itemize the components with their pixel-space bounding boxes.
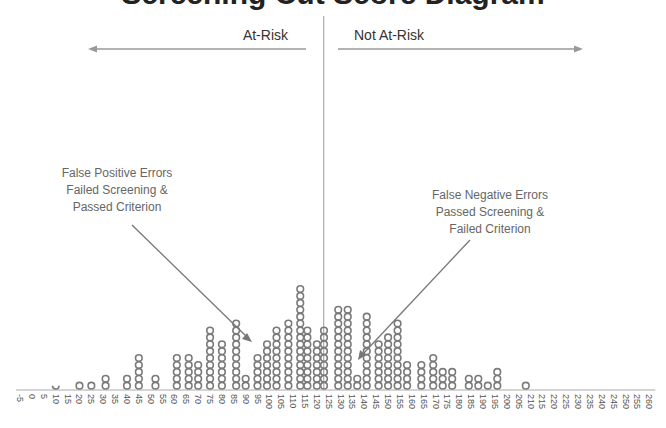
data-point [297, 362, 304, 369]
data-point [242, 382, 249, 389]
x-tick-label: 30 [98, 394, 108, 404]
data-point [264, 355, 271, 362]
data-point [430, 376, 437, 383]
data-point [254, 376, 261, 383]
data-point [363, 320, 370, 327]
data-point [207, 327, 214, 334]
data-point [233, 341, 240, 348]
dot-column [76, 382, 83, 389]
data-point [314, 348, 321, 355]
x-tick-label: 255 [632, 394, 642, 409]
data-point [207, 369, 214, 376]
x-tick-label: 95 [253, 394, 263, 404]
data-point [466, 382, 473, 389]
x-tick-label: 70 [193, 394, 203, 404]
data-point [418, 382, 425, 389]
dot-plot-chart: Screening Cut Score Diagram At-Risk Not … [0, 0, 666, 428]
data-point [254, 369, 261, 376]
dot-column [394, 320, 401, 389]
dot-column [152, 376, 159, 390]
data-point [466, 376, 473, 383]
data-point [273, 376, 280, 383]
data-point [375, 382, 382, 389]
data-point [385, 348, 392, 355]
data-point [124, 382, 131, 389]
data-point [304, 348, 311, 355]
data-point [185, 362, 192, 369]
data-point [314, 341, 321, 348]
dot-column [404, 362, 411, 389]
data-point [430, 369, 437, 376]
data-point [344, 348, 351, 355]
x-tick-label: 135 [347, 394, 357, 409]
false-negative-line-2: Passed Screening & [436, 205, 545, 219]
data-point [439, 376, 446, 383]
dot-column [466, 376, 473, 390]
data-point [494, 376, 501, 383]
x-tick-label: 90 [241, 394, 251, 404]
data-point [385, 376, 392, 383]
x-tick-label: 150 [383, 394, 393, 409]
data-point [254, 355, 261, 362]
data-point [404, 376, 411, 383]
data-point [304, 376, 311, 383]
x-tick-label: 250 [621, 394, 631, 409]
data-point [375, 348, 382, 355]
data-point [136, 355, 143, 362]
data-point [394, 355, 401, 362]
data-point [297, 286, 304, 293]
x-tick-label: 50 [146, 394, 156, 404]
data-point [264, 341, 271, 348]
x-tick-label: 170 [431, 394, 441, 409]
data-point [363, 376, 370, 383]
data-point [394, 348, 401, 355]
data-point [314, 376, 321, 383]
data-point [344, 327, 351, 334]
x-tick-label: 215 [537, 394, 547, 409]
data-point [375, 369, 382, 376]
x-tick-label: 25 [86, 394, 96, 404]
data-point [297, 369, 304, 376]
data-point [219, 362, 226, 369]
data-point [404, 382, 411, 389]
dot-column [375, 341, 382, 389]
x-tick-label: 230 [573, 394, 583, 409]
data-point [335, 355, 342, 362]
data-point [233, 334, 240, 341]
data-point [219, 376, 226, 383]
data-point [152, 382, 159, 389]
x-tick-label: 200 [502, 394, 512, 409]
x-tick-label: 80 [217, 394, 227, 404]
data-point [344, 320, 351, 327]
x-tick-label: 115 [300, 394, 310, 408]
data-point [297, 348, 304, 355]
false-negative-line-3: Failed Criterion [449, 222, 530, 236]
x-tick-label: 105 [276, 394, 286, 409]
data-point [136, 382, 143, 389]
data-point [385, 382, 392, 389]
data-point [354, 382, 361, 389]
dot-column [233, 320, 240, 389]
dot-column [494, 369, 501, 389]
data-point [219, 341, 226, 348]
x-tick-label: 260 [644, 394, 654, 409]
data-point [185, 382, 192, 389]
dot-columns [52, 286, 529, 389]
x-tick-label: 125 [324, 394, 334, 409]
data-point [273, 382, 280, 389]
data-point [297, 327, 304, 334]
x-tick-label: 10 [51, 394, 61, 404]
data-point [233, 355, 240, 362]
data-point [297, 341, 304, 348]
data-point [264, 362, 271, 369]
dot-column [102, 376, 109, 390]
data-point [304, 369, 311, 376]
data-point [304, 382, 311, 389]
data-point [185, 376, 192, 383]
data-point [207, 376, 214, 383]
data-point [314, 355, 321, 362]
dot-column [242, 376, 249, 390]
data-point [195, 362, 202, 369]
data-point [174, 382, 181, 389]
data-point [102, 376, 109, 383]
